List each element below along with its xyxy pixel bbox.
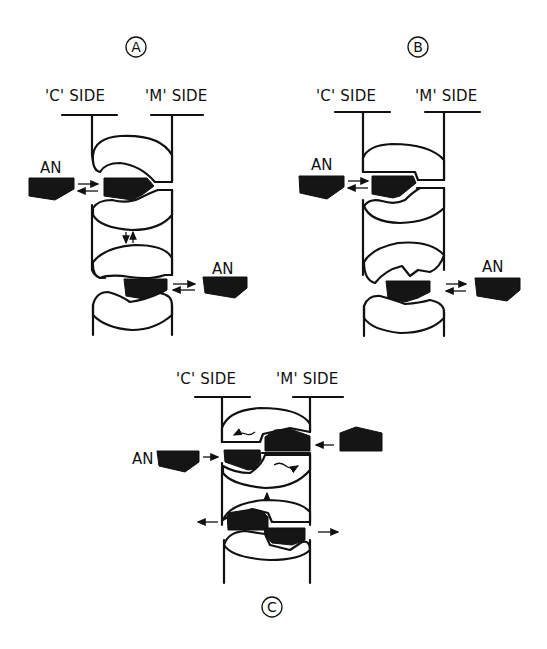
c-side-label: 'C' SIDE [45, 87, 105, 105]
bound-an-ligand-lower-m [264, 528, 305, 545]
m-side-label: 'M' SIDE [145, 87, 208, 105]
free-an-ligand [29, 178, 74, 200]
panel-a-letter: A [131, 39, 141, 55]
panel-b: B 'C' SIDE 'M' SIDE AN AN [299, 37, 520, 336]
free-an-ligand [299, 176, 344, 199]
free-an-label: AN [40, 159, 61, 177]
middle-lower-subunit [364, 243, 444, 284]
m-side-label: 'M' SIDE [415, 87, 478, 105]
panel-a-label-badge: A [126, 37, 146, 57]
free-an-ligand-m-side [340, 427, 382, 451]
free-an-ligand-lower [475, 278, 520, 301]
panel-b-letter: B [413, 39, 423, 55]
panel-a: A 'C' SIDE 'M' SIDE AN AN [29, 37, 247, 335]
free-an-ligand-lower [203, 277, 247, 298]
top-subunit [363, 144, 444, 180]
panel-b-label-badge: B [408, 37, 428, 57]
panel-c-letter: C [267, 599, 277, 615]
mechanism-diagram: A 'C' SIDE 'M' SIDE AN AN [0, 0, 547, 649]
free-an-label: AN [132, 450, 153, 468]
free-an-ligand [157, 451, 199, 472]
c-side-label: 'C' SIDE [176, 370, 236, 388]
free-an-label-lower: AN [482, 258, 503, 276]
bound-an-ligand-c-side [224, 450, 261, 470]
m-side-label: 'M' SIDE [276, 370, 339, 388]
bound-an-ligand-lower-c [227, 510, 268, 530]
panel-c: 'C' SIDE 'M' SIDE AN [132, 370, 382, 617]
free-an-label: AN [311, 156, 332, 174]
panel-c-label-badge: C [262, 597, 282, 617]
middle-lower-subunit [93, 245, 172, 278]
bound-an-ligand-m-side [265, 429, 310, 451]
c-side-label: 'C' SIDE [316, 87, 376, 105]
top-subunit [93, 136, 172, 182]
bottom-subunit [93, 292, 172, 330]
free-an-label-lower: AN [212, 260, 233, 278]
